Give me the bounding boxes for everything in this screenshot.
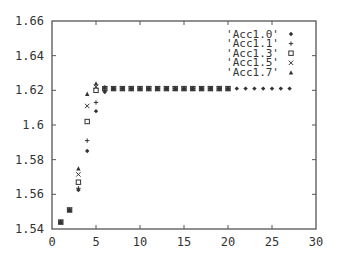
diamond-marker [270, 86, 274, 90]
x-tick-label: 15 [177, 235, 191, 249]
square-marker [289, 51, 293, 55]
cross-marker [76, 172, 80, 176]
data-points [59, 81, 292, 224]
legend-label: 'Acc1.7' [226, 66, 279, 79]
cross-marker [85, 104, 89, 108]
plus-marker [289, 41, 293, 45]
diamond-marker [289, 32, 293, 36]
diamond-marker [287, 86, 291, 90]
legend: 'Acc1.0''Acc1.1''Acc1.3''Acc1.5''Acc1.7' [226, 28, 293, 79]
triangle-marker [76, 166, 80, 170]
square-marker [76, 180, 80, 184]
triangle-marker [289, 70, 293, 74]
y-tick-label: 1.54 [15, 222, 44, 236]
diamond-marker [243, 86, 247, 90]
series-Acc1-7 [59, 81, 231, 224]
series-Acc1-0 [59, 86, 292, 224]
square-marker [85, 119, 89, 123]
series-Acc1-1 [59, 86, 231, 224]
plus-marker [85, 138, 89, 142]
series-Acc1-5 [59, 85, 231, 225]
y-tick-label: 1.64 [15, 49, 44, 63]
diamond-marker [85, 149, 89, 153]
x-tick-label: 30 [309, 235, 323, 249]
diamond-marker [94, 109, 98, 113]
cross-marker [289, 61, 293, 65]
x-tick-label: 20 [221, 235, 235, 249]
x-tick-label: 0 [48, 235, 55, 249]
diamond-marker [252, 86, 256, 90]
y-tick-label: 1.58 [15, 153, 44, 167]
x-tick-label: 5 [92, 235, 99, 249]
x-tick-label: 25 [265, 235, 279, 249]
triangle-marker [85, 92, 89, 96]
x-axis: 051015202530 [48, 21, 323, 249]
plus-marker [94, 100, 98, 104]
x-tick-label: 10 [133, 235, 147, 249]
y-tick-label: 1.6 [22, 118, 44, 132]
scatter-chart: 051015202530 1.541.561.581.61.621.641.66… [0, 0, 339, 260]
y-tick-label: 1.62 [15, 83, 44, 97]
series-Acc1-3 [59, 86, 231, 224]
diamond-marker [279, 86, 283, 90]
diamond-marker [261, 86, 265, 90]
diamond-marker [235, 86, 239, 90]
y-tick-label: 1.56 [15, 187, 44, 201]
triangle-marker [94, 81, 98, 85]
y-tick-label: 1.66 [15, 14, 44, 28]
